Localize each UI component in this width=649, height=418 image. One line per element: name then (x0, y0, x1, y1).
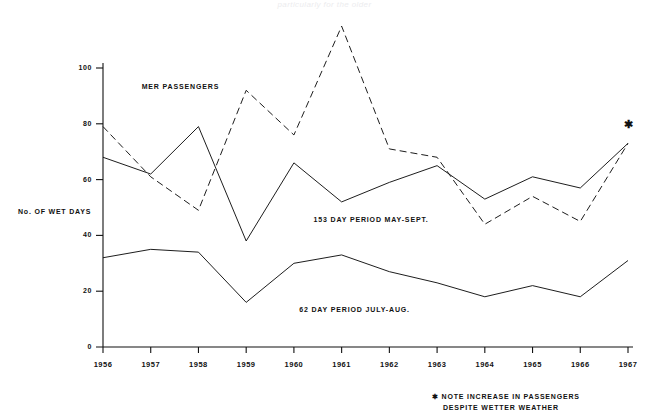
x-tick-label-1962: 1962 (369, 360, 409, 369)
x-tick-label-1963: 1963 (417, 360, 457, 369)
passengers-label: MER PASSENGERS (142, 83, 220, 90)
x-tick-label-1964: 1964 (465, 360, 505, 369)
x-tick-label-1965: 1965 (513, 360, 553, 369)
footnote-line-2: DESPITE WETTER WEATHER (432, 402, 580, 413)
y-tick-label-20: 20 (70, 287, 92, 294)
season-153-label: 153 DAY PERIOD MAY-SEPT. (314, 216, 429, 223)
y-tick-label-40: 40 (70, 231, 92, 238)
x-tick-label-1958: 1958 (178, 360, 218, 369)
series-line-2 (103, 249, 628, 302)
x-tick-label-1966: 1966 (560, 360, 600, 369)
x-tick-label-1960: 1960 (274, 360, 314, 369)
y-tick-label-100: 100 (70, 64, 92, 71)
footnote-text-2: DESPITE WETTER WEATHER (443, 404, 559, 411)
chart-footnote: ✱ NOTE INCREASE IN PASSENGERS DESPITE WE… (432, 391, 580, 413)
x-tick-label-1957: 1957 (131, 360, 171, 369)
series-line-1 (103, 127, 628, 241)
chart-series-layer (103, 26, 628, 302)
chart-figure: particularly for the older 204060801000 … (0, 0, 649, 418)
y-tick-label-80: 80 (70, 120, 92, 127)
y-tick-label-60: 60 (70, 176, 92, 183)
chart-canvas (0, 0, 649, 418)
y-axis-ticks (96, 68, 103, 291)
x-tick-label-1967: 1967 (608, 360, 648, 369)
x-tick-label-1956: 1956 (83, 360, 123, 369)
season-62-label: 62 DAY PERIOD JULY-AUG. (299, 306, 410, 313)
convergence-star: ✱ (624, 119, 633, 130)
x-axis-ticks (103, 347, 628, 353)
footnote-star-icon: ✱ (432, 393, 439, 400)
x-tick-label-1959: 1959 (226, 360, 266, 369)
footnote-text-1: NOTE INCREASE IN PASSENGERS (442, 393, 580, 400)
footnote-line-1: ✱ NOTE INCREASE IN PASSENGERS (432, 391, 580, 402)
y-axis-title: No. OF WET DAYS (18, 208, 91, 215)
y-tick-label-0: 0 (70, 343, 92, 350)
x-tick-label-1961: 1961 (322, 360, 362, 369)
series-line-0 (103, 26, 628, 224)
